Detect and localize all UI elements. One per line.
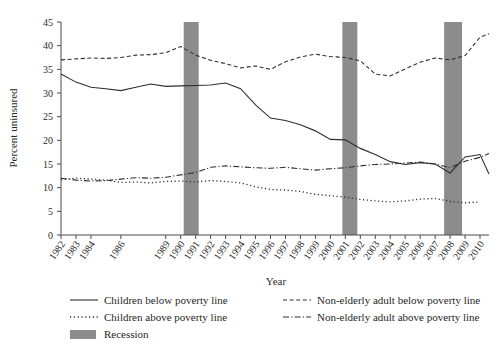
x-axis-title: Year xyxy=(266,275,287,287)
y-axis-tick-label: 5 xyxy=(48,206,53,217)
recession-band xyxy=(184,22,199,235)
recession-band xyxy=(444,22,462,235)
y-axis-title: Percent uninsured xyxy=(7,88,19,168)
y-axis-tick-label: 25 xyxy=(43,111,53,122)
y-axis-tick-label: 20 xyxy=(43,135,53,146)
legend-label: Children below poverty line xyxy=(104,294,228,306)
y-axis-tick-label: 45 xyxy=(43,17,53,28)
y-axis-tick-label: 35 xyxy=(43,64,53,75)
y-axis-tick-label: 15 xyxy=(43,159,53,170)
recession-band xyxy=(342,22,357,235)
legend-label: Non-elderly adult below poverty line xyxy=(317,294,480,306)
y-axis-tick-label: 30 xyxy=(43,88,53,99)
uninsured-rate-chart: 051015202530354045 198219831984198619891… xyxy=(0,0,502,353)
y-axis-tick-label: 0 xyxy=(48,230,53,241)
y-axis-tick-label: 10 xyxy=(43,182,53,193)
legend-label: Children above poverty line xyxy=(104,311,227,323)
legend-swatch-recession xyxy=(70,330,96,339)
legend-label: Recession xyxy=(104,328,149,340)
y-axis-tick-label: 40 xyxy=(43,40,53,51)
legend-label: Non-elderly adult above poverty line xyxy=(317,311,480,323)
